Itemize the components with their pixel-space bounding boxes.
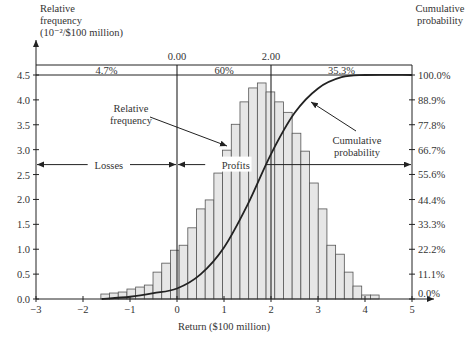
histogram-bar xyxy=(223,150,232,299)
x-tick-label: 3 xyxy=(315,304,320,315)
y2-tick-label: 0.0% xyxy=(418,288,440,299)
x-tick-label: −3 xyxy=(30,304,41,315)
y2-tick-label: 22.2% xyxy=(418,244,445,255)
y2-axis-title-line: Cumulative xyxy=(416,3,465,14)
y2-tick-label: 66.7% xyxy=(418,145,445,156)
histogram-bar xyxy=(362,295,371,299)
x-tick-label: 2 xyxy=(268,304,273,315)
y-tick-label: 3.5 xyxy=(17,120,30,131)
y-axis-title-line: Relative xyxy=(40,3,75,14)
y-tick-label: 4.0 xyxy=(17,95,30,106)
histogram-bar xyxy=(188,228,197,299)
histogram-bar xyxy=(240,102,249,299)
histogram-bar xyxy=(292,133,301,299)
cumulative-probability-arrow xyxy=(311,102,356,131)
y-tick-label: 2.5 xyxy=(17,170,30,181)
relative-frequency-label: Relative xyxy=(114,103,149,114)
histogram-bar xyxy=(257,83,266,299)
x-axis-title: Return ($100 million) xyxy=(178,321,271,333)
histogram-bar xyxy=(266,92,275,299)
y2-tick-label: 77.8% xyxy=(418,120,445,131)
band-percentage-label: 60% xyxy=(214,65,234,76)
y-tick-label: 4.5 xyxy=(17,70,30,81)
histogram-bar xyxy=(344,272,353,299)
x-tick-label: 4 xyxy=(362,304,368,315)
cumulative-probability-label: probability xyxy=(334,147,381,158)
x-tick-label: 1 xyxy=(221,304,226,315)
profits-label: Profits xyxy=(222,160,250,171)
y-axis-title-line: frequency xyxy=(40,15,83,26)
annotations: LossesProfitsRelativefrequencyCumulative… xyxy=(37,102,411,172)
losses-label: Losses xyxy=(95,160,124,171)
cumulative-probability-label: Cumulative xyxy=(333,135,382,146)
histogram-bar xyxy=(318,209,327,299)
histogram-bar xyxy=(136,287,145,299)
histogram-bar xyxy=(214,173,223,299)
histogram-bar xyxy=(327,245,336,299)
y-tick-label: 2.0 xyxy=(17,194,30,205)
chart-canvas: 0.002.004.7%60%35.3%−3−2−10123450.00.51.… xyxy=(0,0,467,341)
histogram-bar xyxy=(205,200,214,299)
y2-tick-label: 100.0% xyxy=(418,70,451,81)
histogram-bar xyxy=(179,245,188,299)
y-tick-label: 1.5 xyxy=(17,219,30,230)
histogram-bar xyxy=(144,285,153,299)
histogram-bar xyxy=(353,286,362,299)
y-tick-label: 0.5 xyxy=(17,269,30,280)
histogram-bar xyxy=(197,209,206,299)
relative-frequency-arrow xyxy=(150,117,227,146)
histogram-bar xyxy=(370,295,379,299)
histogram-bar xyxy=(301,151,310,299)
histogram-bar xyxy=(170,250,179,299)
histogram-bar xyxy=(310,183,319,299)
histogram-bar xyxy=(283,112,292,299)
y-tick-label: 0.0 xyxy=(17,294,30,305)
y2-tick-label: 44.4% xyxy=(418,195,445,206)
y2-tick-label: 55.6% xyxy=(418,169,445,180)
x-tick-label: 0 xyxy=(174,304,179,315)
y-tick-label: 3.0 xyxy=(17,145,30,156)
histogram-bar xyxy=(231,124,240,299)
y2-tick-label: 11.1% xyxy=(418,269,445,280)
histogram-chart: 0.002.004.7%60%35.3%−3−2−10123450.00.51.… xyxy=(0,0,467,341)
x-tick-label: −1 xyxy=(124,304,135,315)
histogram-bar xyxy=(162,263,171,299)
y2-tick-label: 33.3% xyxy=(418,219,445,230)
y-axis-title-line: (10⁻²/$100 million) xyxy=(40,27,124,39)
reference-line-label: 2.00 xyxy=(262,51,280,62)
histogram-bar xyxy=(153,272,162,299)
reference-line-label: 0.00 xyxy=(168,51,186,62)
x-tick-label: 5 xyxy=(409,304,414,315)
relative-frequency-label: frequency xyxy=(110,115,153,126)
band-percentage-label: 35.3% xyxy=(328,65,355,76)
y2-axis-title-line: probability xyxy=(417,15,464,26)
band-percentage-label: 4.7% xyxy=(96,65,118,76)
x-tick-label: −2 xyxy=(77,304,88,315)
histogram-bar xyxy=(336,254,345,299)
y-tick-label: 1.0 xyxy=(17,244,30,255)
y2-tick-label: 88.9% xyxy=(418,95,445,106)
